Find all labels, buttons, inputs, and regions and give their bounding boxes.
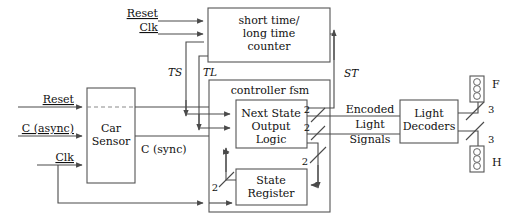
traffic-light-h-label: H — [492, 156, 502, 169]
car-sensor-label-line2: Sensor — [92, 135, 131, 148]
tl-label: TL — [203, 66, 217, 78]
sensor-c-async-label: C (async) — [22, 122, 74, 135]
encoded-label: Encoded — [346, 103, 395, 116]
controller-fsm-label: controller fsm — [231, 84, 310, 97]
car-sensor-label-line1: Car — [101, 122, 122, 135]
block-diagram-canvas: short time/ long time counter Reset Clk … — [0, 0, 513, 223]
counter-label-line3: counter — [247, 40, 291, 53]
counter-reset-label: Reset — [127, 7, 159, 20]
bus-width-encoded-upper: 2 — [304, 104, 310, 115]
bus-width-light-h: 3 — [488, 134, 494, 145]
bus-width-next-state: 2 — [302, 156, 308, 167]
diagram-svg: short time/ long time counter Reset Clk … — [0, 0, 513, 223]
traffic-light-h-lamp-bot — [474, 163, 481, 170]
bus-width-light-f: 3 — [488, 104, 494, 115]
light-label: Light — [355, 118, 385, 131]
st-label: ST — [344, 67, 359, 79]
c-sync-label: C (sync) — [141, 143, 187, 156]
traffic-light-f-lamp-mid — [474, 86, 481, 93]
bus-width-state-feedback: 2 — [212, 182, 218, 193]
next-state-logic-line2: Output — [251, 120, 291, 133]
state-register-line1: State — [256, 174, 285, 187]
bus-slash-light-f — [466, 102, 484, 120]
counter-clk-label: Clk — [139, 21, 158, 34]
counter-label-line2: long time — [243, 27, 296, 40]
traffic-light-f-label: F — [492, 78, 500, 91]
light-decoders-line1: Light — [414, 107, 444, 120]
bus-width-encoded-lower: 2 — [304, 122, 310, 133]
wire-light-h — [458, 131, 478, 148]
state-register-line2: Register — [247, 187, 295, 200]
next-state-logic-line3: Logic — [256, 133, 287, 146]
sensor-clk-label: Clk — [55, 151, 74, 164]
traffic-light-f-lamp-bot — [474, 93, 481, 100]
traffic-light-h-lamp-mid — [474, 156, 481, 163]
counter-label-line1: short time/ — [238, 14, 299, 27]
sensor-reset-label: Reset — [43, 93, 75, 106]
next-state-logic-line1: Next State — [241, 107, 301, 120]
light-decoders-line2: Decoders — [403, 120, 456, 133]
traffic-light-h-lamp-top — [474, 149, 481, 156]
ts-label: TS — [168, 66, 182, 78]
signals-label: Signals — [350, 133, 391, 146]
traffic-light-f-lamp-top — [474, 79, 481, 86]
